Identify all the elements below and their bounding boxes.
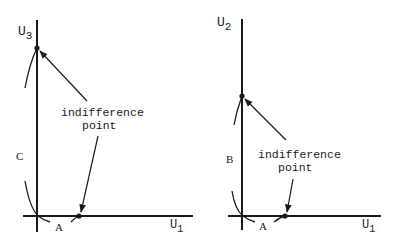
right-indifference-point-vertical bbox=[239, 93, 244, 98]
left-arrow-upper bbox=[40, 51, 87, 101]
right-arrow-upper bbox=[245, 99, 286, 140]
left-diagram: U3 U1 indifference point C A bbox=[16, 20, 193, 235]
left-upper-curve bbox=[25, 48, 37, 88]
left-annotation-line1: indifference bbox=[61, 106, 144, 119]
indifference-diagrams: U3 U1 indifference point C A U2 bbox=[0, 0, 396, 248]
left-indifference-point-vertical bbox=[34, 45, 39, 50]
right-annotation-line1: indifference bbox=[258, 148, 341, 161]
right-lower-curve bbox=[232, 191, 255, 222]
right-arrow-lower bbox=[287, 179, 293, 212]
right-x-axis-label: U1 bbox=[362, 218, 375, 235]
right-segment-label-a: A bbox=[259, 220, 267, 232]
right-diagram: U2 U1 indifference point B A bbox=[217, 15, 381, 235]
right-indifference-point-horizontal bbox=[282, 213, 287, 218]
left-y-axis-label: U3 bbox=[18, 24, 32, 42]
left-x-axis-label: U1 bbox=[170, 218, 183, 235]
left-arrow-lower bbox=[81, 136, 98, 212]
left-annotation-line2: point bbox=[82, 119, 117, 132]
left-segment-label-a: A bbox=[55, 221, 63, 233]
right-upper-curve bbox=[234, 96, 242, 125]
left-segment-label-c: C bbox=[16, 150, 23, 162]
right-annotation-line2: point bbox=[278, 161, 313, 174]
right-y-axis-label: U2 bbox=[217, 15, 231, 33]
left-indifference-point-horizontal bbox=[76, 213, 81, 218]
right-segment-label-b: B bbox=[226, 153, 233, 165]
